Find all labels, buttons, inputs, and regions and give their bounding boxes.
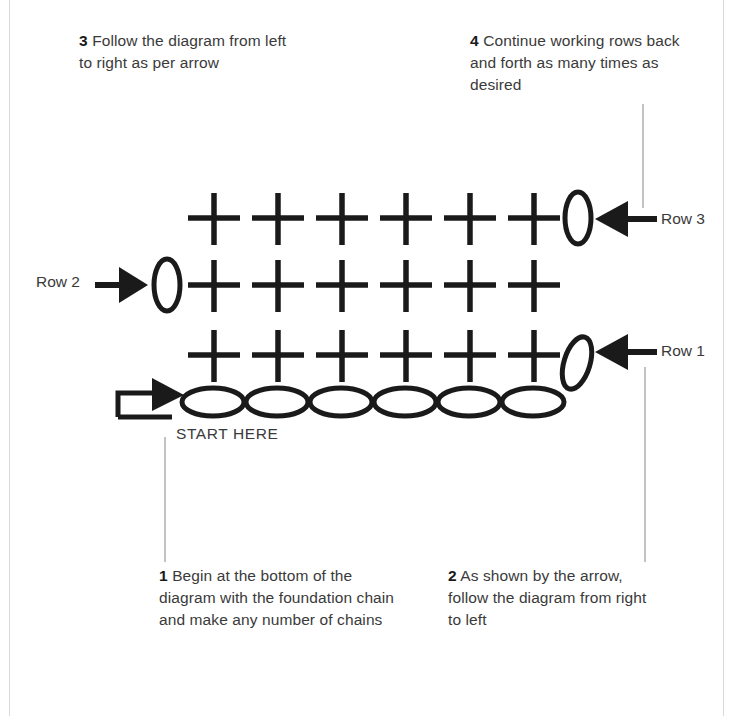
row-3-stitches — [188, 193, 560, 245]
chain-stitch — [374, 388, 436, 416]
callout-1: 1 Begin at the bottom of the diagram wit… — [159, 565, 409, 631]
start-here-label: START HERE — [176, 425, 278, 443]
stitch-plus — [444, 330, 496, 382]
stitch-plus — [252, 193, 304, 245]
stitch-plus — [316, 330, 368, 382]
stitch-plus — [316, 193, 368, 245]
stitch-plus — [380, 330, 432, 382]
stitch-plus — [508, 193, 560, 245]
diagram-page: 3 Follow the diagram from left to right … — [0, 0, 734, 716]
callout-1-number: 1 — [159, 567, 168, 584]
row-1-arrow — [595, 334, 657, 370]
stitch-plus — [508, 330, 560, 382]
stitch-plus — [508, 260, 560, 312]
callout-2-number: 2 — [448, 567, 457, 584]
row-1-stitches — [188, 330, 560, 382]
stitch-plus — [444, 193, 496, 245]
stitch-plus — [252, 330, 304, 382]
stitch-plus — [380, 260, 432, 312]
stitch-plus — [252, 260, 304, 312]
callout-2: 2 As shown by the arrow, follow the diag… — [448, 565, 663, 631]
row-2-stitches — [188, 260, 560, 312]
chain-stitch — [502, 388, 564, 416]
turning-chain-row-2 — [154, 259, 180, 311]
stitch-plus — [188, 193, 240, 245]
foundation-chain — [182, 388, 564, 416]
turning-chain-row-3 — [565, 192, 591, 244]
row-label-row-3: Row 3 — [661, 210, 705, 228]
row-label-row-2: Row 2 — [36, 273, 80, 291]
row-label-row-1: Row 1 — [661, 342, 705, 360]
chain-stitch — [182, 388, 244, 416]
start-here-arrow — [118, 378, 184, 417]
callout-3: 3 Follow the diagram from left to right … — [79, 30, 294, 74]
callout-4-number: 4 — [470, 32, 479, 49]
callout-2-text: As shown by the arrow, follow the diagra… — [448, 567, 646, 628]
stitch-plus — [188, 260, 240, 312]
stitch-plus — [444, 260, 496, 312]
turning-chain-row-1 — [557, 333, 598, 392]
callout-1-text: Begin at the bottom of the diagram with … — [159, 567, 394, 628]
chain-stitch — [438, 388, 500, 416]
callout-4: 4 Continue working rows back and forth a… — [470, 30, 685, 96]
chain-stitch — [310, 388, 372, 416]
row-2-arrow — [95, 267, 148, 303]
callout-3-number: 3 — [79, 32, 88, 49]
callout-3-text: Follow the diagram from left to right as… — [79, 32, 286, 71]
chain-stitch — [246, 388, 308, 416]
row-3-arrow — [595, 201, 657, 237]
stitch-plus — [316, 260, 368, 312]
callout-4-text: Continue working rows back and forth as … — [470, 32, 680, 93]
stitch-plus — [380, 193, 432, 245]
stitch-plus — [188, 330, 240, 382]
